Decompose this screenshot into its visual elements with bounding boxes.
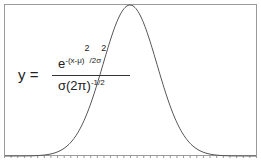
numerator-exponent: -(x-μ)2/2σ2 bbox=[65, 56, 106, 65]
denominator-exponent: -1/2 bbox=[91, 78, 105, 87]
exp-tail: /2σ bbox=[90, 56, 102, 65]
exp-tail-square: 2 bbox=[101, 43, 106, 53]
denominator-base: σ(2π) bbox=[58, 78, 91, 93]
gaussian-formula: y = e-(x-μ)2/2σ2 σ(2π)-1/2 bbox=[18, 53, 138, 103]
exp-part: -(x-μ) bbox=[65, 56, 84, 65]
exp-square: 2 bbox=[85, 43, 90, 53]
formula-denominator: σ(2π)-1/2 bbox=[58, 78, 105, 93]
fraction-bar bbox=[52, 75, 130, 76]
formula-lhs: y = bbox=[18, 66, 38, 83]
formula-numerator: e-(x-μ)2/2σ2 bbox=[58, 55, 106, 71]
